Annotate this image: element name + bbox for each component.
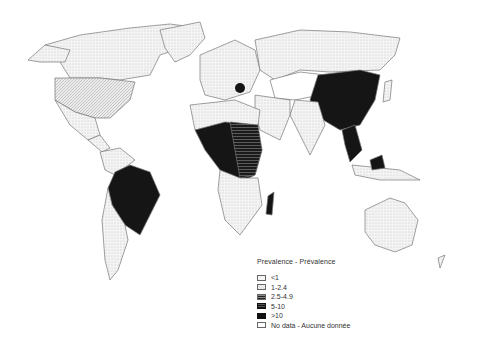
legend-item-gt10: >10 [257, 311, 350, 321]
oceania [365, 198, 445, 268]
russia [255, 30, 400, 80]
swatch-icon [257, 322, 266, 328]
swatch-icon [257, 294, 266, 300]
swatch-icon [257, 284, 266, 290]
borneo [370, 155, 385, 170]
legend-item-2-5-4-9: 2.5-4.9 [257, 292, 350, 302]
south-america [100, 148, 160, 280]
asia [255, 30, 420, 180]
madagascar [266, 192, 274, 215]
middle-east [255, 95, 290, 140]
europe [200, 40, 260, 100]
japan [383, 80, 392, 102]
north-america [28, 22, 205, 152]
swatch-icon [257, 303, 266, 309]
southern-africa [218, 170, 262, 235]
new-zealand [438, 255, 445, 268]
india [290, 100, 325, 155]
swatch-icon [257, 275, 266, 281]
legend-item-1-2-4: 1-2.4 [257, 283, 350, 293]
world-map [0, 0, 484, 361]
legend: Prevalence - Prévalence <1 1-2.4 2.5-4.9… [257, 258, 350, 330]
western-europe [200, 40, 260, 100]
legend-item-lt1: <1 [257, 273, 350, 283]
se-asia [342, 125, 362, 162]
hungary [235, 83, 245, 93]
swatch-icon [257, 313, 266, 319]
legend-item-no-data: No data - Aucune donnée [257, 321, 350, 331]
australia [365, 198, 418, 252]
indonesia [352, 165, 420, 180]
legend-item-5-10: 5-10 [257, 302, 350, 312]
legend-title: Prevalence - Prévalence [257, 258, 350, 265]
